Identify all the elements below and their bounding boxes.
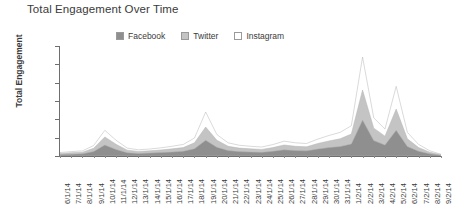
- y-axis-tick-mark: [55, 83, 59, 84]
- x-axis-tick-mark: [251, 156, 252, 158]
- x-axis-tick-mark: [206, 156, 207, 158]
- y-axis-tick-mark: [55, 64, 59, 65]
- x-axis-tick-label: 4/2/14: [388, 183, 397, 204]
- x-axis-tick-mark: [138, 156, 139, 158]
- x-axis-tick-label: 7/1/14: [74, 183, 83, 204]
- x-axis-tick-label: 6/2/14: [410, 183, 419, 204]
- x-axis-tick-mark: [82, 156, 83, 158]
- x-axis-tick-label: 10/1/14: [108, 179, 117, 204]
- x-axis-tick-label: 16/1/14: [175, 179, 184, 204]
- x-axis-tick-mark: [441, 156, 442, 158]
- x-axis-tick-label: 13/1/14: [141, 179, 150, 204]
- x-axis-tick-mark: [295, 156, 296, 158]
- x-axis-tick-mark: [385, 156, 386, 158]
- x-axis-tick-mark: [363, 156, 364, 158]
- x-axis-tick-label: 12/1/14: [130, 179, 139, 204]
- x-axis-tick-mark: [419, 156, 420, 158]
- legend-label: Instagram: [246, 31, 284, 41]
- legend-item-instagram[interactable]: Instagram: [234, 31, 284, 41]
- x-axis-tick-mark: [60, 156, 61, 158]
- x-axis-tick-label: 18/1/14: [197, 179, 206, 204]
- chart-legend: FacebookTwitterInstagram: [116, 31, 284, 41]
- x-axis-tick-mark: [71, 156, 72, 158]
- legend-swatch-icon: [181, 32, 189, 40]
- x-axis-tick-label: 30/1/14: [332, 179, 341, 204]
- x-axis-tick-label: 6/1/14: [63, 183, 72, 204]
- x-axis-tick-label: 9/1/14: [97, 183, 106, 204]
- x-axis-tick-mark: [430, 156, 431, 158]
- x-axis-tick-mark: [105, 156, 106, 158]
- x-axis-tick-label: 2/2/14: [366, 183, 375, 204]
- legend-swatch-icon: [116, 32, 124, 40]
- x-axis-tick-mark: [172, 156, 173, 158]
- x-axis-tick-mark: [318, 156, 319, 158]
- x-axis-tick-mark: [262, 156, 263, 158]
- y-axis-tick-mark: [55, 138, 59, 139]
- x-axis-tick-label: 3/2/14: [377, 183, 386, 204]
- x-axis-tick-mark: [183, 156, 184, 158]
- y-axis-tick-mark: [55, 156, 59, 157]
- x-axis-tick-label: 29/1/14: [321, 179, 330, 204]
- x-axis-tick-label: 14/1/14: [153, 179, 162, 204]
- x-axis-tick-mark: [116, 156, 117, 158]
- y-axis-tick-labels: 3.0M2.5M2.0M1.5M1.0M500.0K0: [0, 0, 54, 207]
- x-axis-tick-mark: [407, 156, 408, 158]
- x-axis-tick-label: 7/2/14: [422, 183, 431, 204]
- x-axis-tick-mark: [351, 156, 352, 158]
- x-axis-tick-label: 21/1/14: [231, 179, 240, 204]
- legend-item-facebook[interactable]: Facebook: [116, 31, 165, 41]
- x-axis-tick-mark: [228, 156, 229, 158]
- x-axis-tick-label: 28/1/14: [310, 179, 319, 204]
- x-axis-tick-label: 15/1/14: [164, 179, 173, 204]
- x-axis-tick-mark: [239, 156, 240, 158]
- x-axis-tick-label: 22/1/14: [242, 179, 251, 204]
- y-axis-tick-mark: [55, 101, 59, 102]
- x-axis-tick-mark: [273, 156, 274, 158]
- x-axis-tick-label: 17/1/14: [186, 179, 195, 204]
- x-axis-tick-label: 1/2/14: [354, 183, 363, 204]
- x-axis-tick-label: 8/1/14: [85, 183, 94, 204]
- x-axis-tick-mark: [396, 156, 397, 158]
- stacked-area-series: [60, 46, 441, 156]
- x-axis-tick-mark: [329, 156, 330, 158]
- x-axis-tick-mark: [194, 156, 195, 158]
- x-axis-tick-label: 11/1/14: [119, 180, 128, 204]
- x-axis-tick-mark: [150, 156, 151, 158]
- legend-item-twitter[interactable]: Twitter: [181, 31, 218, 41]
- x-axis-tick-label: 25/1/14: [276, 179, 285, 204]
- x-axis-tick-label: 26/1/14: [287, 179, 296, 204]
- x-axis-tick-label: 9/2/14: [444, 183, 453, 204]
- plot-area: [60, 46, 441, 156]
- x-axis-tick-mark: [161, 156, 162, 158]
- legend-label: Facebook: [128, 31, 165, 41]
- x-axis-tick-label: 20/1/14: [220, 179, 229, 204]
- legend-swatch-icon: [234, 32, 242, 40]
- x-axis-tick-mark: [307, 156, 308, 158]
- x-axis-tick-mark: [217, 156, 218, 158]
- x-axis-tick-label: 24/1/14: [265, 179, 274, 204]
- x-axis-tick-mark: [94, 156, 95, 158]
- y-axis-tick-mark: [55, 46, 59, 47]
- x-axis-tick-label: 23/1/14: [254, 179, 263, 204]
- x-axis-tick-label: 31/1/14: [343, 179, 352, 204]
- x-axis-tick-label: 19/1/14: [209, 179, 218, 204]
- x-axis-tick-label: 8/2/14: [433, 183, 442, 204]
- x-axis-tick-mark: [374, 156, 375, 158]
- x-axis-tick-mark: [284, 156, 285, 158]
- x-axis-tick-label: 27/1/14: [298, 179, 307, 204]
- x-axis-tick-mark: [127, 156, 128, 158]
- x-axis-tick-label: 5/2/14: [399, 183, 408, 204]
- y-axis-tick-mark: [55, 119, 59, 120]
- x-axis-tick-mark: [340, 156, 341, 158]
- legend-label: Twitter: [193, 31, 218, 41]
- x-axis-tick-labels: 6/1/147/1/148/1/149/1/1410/1/1411/1/1412…: [60, 158, 441, 207]
